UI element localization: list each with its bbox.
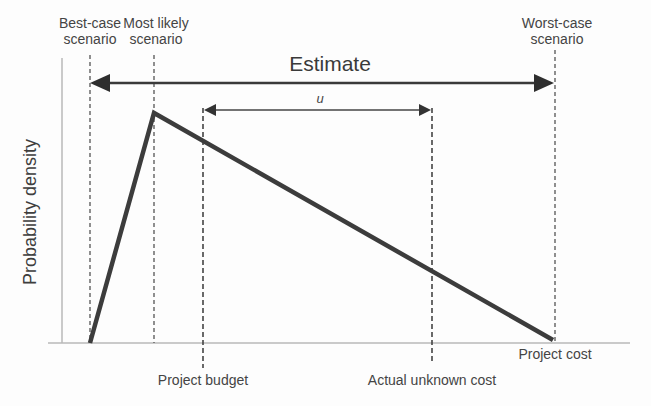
worst-case-label-line1: Worst-case [512,15,602,31]
distribution-curve [90,113,553,343]
project-budget-label: Project budget [143,372,263,388]
most-likely-label: Most likely scenario [108,15,204,47]
estimate-label: Estimate [260,56,400,72]
project-cost-label: Project cost [505,346,605,362]
worst-case-label-line2: scenario [512,31,602,47]
actual-unknown-cost-label: Actual unknown cost [352,372,512,388]
estimate-arrow [90,74,554,92]
y-axis-label: Probability density [20,139,41,285]
most-likely-label-line1: Most likely [108,15,204,31]
most-likely-label-line2: scenario [108,31,204,47]
worst-case-label: Worst-case scenario [512,15,602,47]
u-label: u [300,91,340,107]
